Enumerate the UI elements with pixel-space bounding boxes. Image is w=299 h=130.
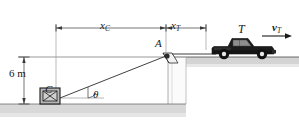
label-height: 6 m — [9, 68, 26, 79]
dimension-xc — [56, 25, 166, 32]
engineering-diagram: xC xT T vT A 6 m C θ — [0, 0, 299, 130]
label-angle: θ — [93, 89, 98, 100]
pickup-truck-icon — [212, 39, 276, 60]
diagram-canvas — [0, 0, 299, 130]
cable-line — [60, 56, 166, 98]
embankment — [168, 58, 186, 104]
label-crate: C — [45, 84, 52, 95]
label-point-a: A — [155, 38, 162, 49]
label-velocity-truck: vT — [272, 22, 281, 35]
label-distance-crate: xC — [100, 20, 110, 33]
label-truck: T — [238, 23, 245, 35]
label-distance-truck: xT — [171, 20, 180, 33]
dimension-height — [19, 57, 30, 104]
